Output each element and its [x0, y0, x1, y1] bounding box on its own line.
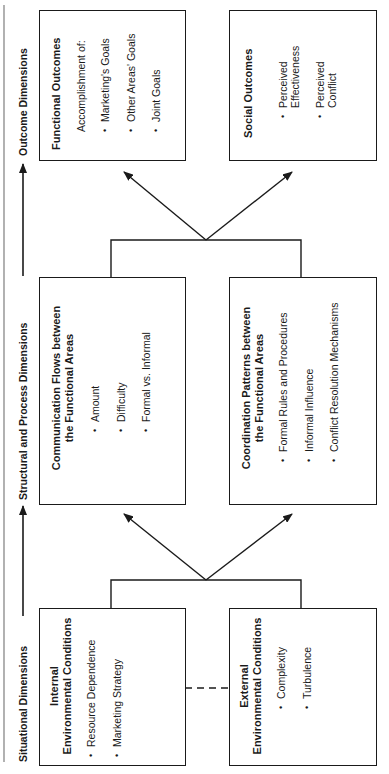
item-list: Perceived Effectiveness Perceived Confli…: [277, 28, 339, 138]
arrow-to-social: [206, 172, 292, 240]
list-item: Other Areas' Goals: [125, 17, 138, 132]
box-coordination-patterns: Coordination Patterns between the Functi…: [229, 277, 377, 505]
box-social-outcomes: Social Outcomes Perceived Effectiveness …: [229, 10, 377, 161]
item-list: Amount Difficulty Formal vs. Informal: [89, 284, 153, 492]
box-functional-outcomes: Functional Outcomes Accomplishment of: M…: [39, 10, 186, 161]
arrow-to-coordination: [206, 514, 292, 580]
axis-label-situational: Situational Dimensions: [16, 646, 30, 762]
bracket-structural: [111, 240, 301, 277]
item-list: Resource Dependence Marketing Strategy: [85, 615, 123, 757]
box-title: Social Outcomes: [242, 17, 255, 138]
arrow-to-communication: [124, 514, 206, 580]
list-item: Amount: [89, 284, 102, 432]
axis-label-outcome: Outcome Dimensions: [16, 48, 30, 156]
list-item: Marketing Strategy: [111, 615, 124, 757]
bracket-situational: [111, 580, 301, 608]
list-item: Marketing's Goals: [99, 17, 112, 132]
item-list: Formal Rules and Procedures Informal Inf…: [277, 284, 341, 492]
box-internal-conditions: Internal Environmental Conditions Resour…: [39, 608, 186, 766]
list-item: Perceived Effectiveness: [277, 28, 302, 118]
list-item: Resource Dependence: [85, 615, 98, 757]
list-item: Turbulence: [301, 615, 314, 709]
box-title: Coordination Patterns between the Functi…: [240, 284, 265, 492]
box-external-conditions: External Environmental Conditions Comple…: [229, 608, 377, 766]
box-communication-flows: Communication Flows between the Function…: [39, 277, 186, 505]
list-item: Formal Rules and Procedures: [277, 284, 290, 462]
item-list: Complexity Turbulence: [275, 615, 313, 757]
box-title: Communication Flows between the Function…: [50, 284, 75, 492]
arrow-to-functional: [124, 172, 206, 240]
box-subtitle: Accomplishment of:: [75, 17, 88, 150]
list-item: Conflict Resolution Mechanisms: [328, 284, 341, 462]
list-item: Joint Goals: [150, 17, 163, 132]
box-title: Internal Environmental Conditions: [48, 615, 73, 757]
list-item: Perceived Conflict: [314, 28, 339, 118]
item-list: Marketing's Goals Other Areas' Goals Joi…: [99, 17, 163, 150]
diagram-canvas: Situational Dimensions Structural and Pr…: [0, 0, 389, 774]
list-item: Difficulty: [115, 284, 128, 432]
box-title: Functional Outcomes: [50, 17, 63, 150]
axis-label-structural: Structural and Process Dimensions: [16, 323, 30, 500]
list-item: Formal vs. Informal: [140, 284, 153, 432]
list-item: Informal Influence: [303, 284, 316, 462]
list-item: Complexity: [275, 615, 288, 709]
box-title: External Environmental Conditions: [238, 615, 263, 757]
